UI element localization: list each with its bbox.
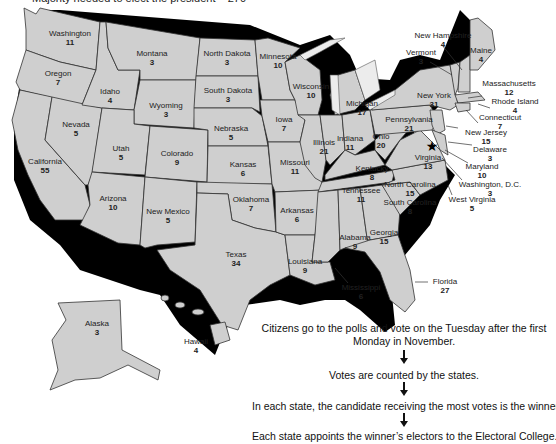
label-utah: Utah5	[113, 144, 130, 162]
label-iowa: Iowa7	[276, 115, 293, 133]
label-indiana: Indiana11	[337, 134, 363, 152]
label-dc: Washington, D.C.3	[459, 180, 521, 198]
label-texas: Texas34	[226, 250, 247, 268]
label-georgia: Georgia15	[370, 228, 398, 246]
label-michigan: Michigan17	[346, 99, 378, 117]
label-arkansas: Arkansas6	[280, 206, 313, 224]
state-connecticut	[455, 103, 470, 112]
label-hawaii: Hawaii4	[184, 337, 208, 355]
label-newhampshire: New Hampshire4	[415, 31, 472, 49]
label-colorado: Colorado9	[161, 149, 193, 167]
flow-step-4: Each state appoints the winner’s elector…	[252, 430, 556, 443]
label-maine: Maine4	[470, 46, 492, 64]
flow-step-1-line-1: Citizens go to the polls and vote on the…	[252, 322, 556, 335]
label-pennsylvania: Pennsylvania21	[385, 115, 433, 133]
label-mississippi: Mississippi6	[342, 283, 381, 301]
label-nebraska: Nebraska5	[214, 124, 248, 142]
flow-step-3: In each state, the candidate receiving t…	[252, 400, 556, 413]
label-northdakota: North Dakota3	[203, 49, 250, 67]
state-hawaii-island-2	[192, 309, 204, 315]
label-southdakota: South Dakota3	[204, 86, 252, 104]
state-hawaii-island-4	[161, 295, 169, 301]
label-washington: Washington11	[49, 29, 91, 47]
label-tennessee: Tennessee11	[342, 186, 381, 204]
label-delaware: Delaware3	[473, 145, 507, 163]
label-louisiana: Louisiana9	[288, 257, 322, 275]
label-illinois: Illinois21	[313, 138, 335, 156]
flow-step-1-line-2: Monday in November.	[252, 335, 556, 348]
label-oklahoma: Oklahoma7	[233, 195, 269, 213]
label-virginia: Virginia13	[415, 153, 442, 171]
label-northcarolina: North Carolina15	[384, 180, 436, 198]
label-arizona: Arizona10	[99, 194, 126, 212]
label-wisconsin: Wisconsin10	[293, 82, 329, 100]
label-nevada: Nevada5	[62, 120, 90, 138]
label-massachusetts: Massachusetts12	[482, 79, 535, 97]
flow-step-1: Citizens go to the polls and vote on the…	[252, 322, 556, 348]
label-maryland: Maryland10	[466, 162, 499, 180]
label-alaska: Alaska3	[85, 319, 109, 337]
label-newmexico: New Mexico5	[146, 207, 190, 225]
label-california: California55	[28, 157, 62, 175]
label-vermont: Vermont3	[406, 48, 436, 66]
label-idaho: Idaho4	[100, 87, 120, 105]
label-newyork: New York31	[417, 91, 451, 109]
label-kansas: Kansas6	[230, 160, 257, 178]
state-hawaii-island-3	[175, 302, 185, 308]
label-oregon: Oregon7	[45, 69, 72, 87]
label-newjersey: New Jersey15	[465, 128, 507, 146]
capital-star-icon: ★	[426, 139, 439, 153]
label-minnesota: Minnesota10	[260, 52, 297, 70]
flow-step-2: Votes are counted by the states.	[252, 369, 556, 382]
label-southcarolina: South Carolina8	[384, 198, 437, 216]
label-alabama: Alabama9	[339, 233, 371, 251]
label-florida: Florida27	[433, 277, 457, 295]
label-missouri: Missouri11	[280, 158, 310, 176]
label-montana: Montana3	[136, 49, 167, 67]
label-wyoming: Wyoming3	[149, 101, 182, 119]
label-ohio: Ohio20	[373, 132, 390, 150]
state-alaska	[50, 300, 160, 390]
